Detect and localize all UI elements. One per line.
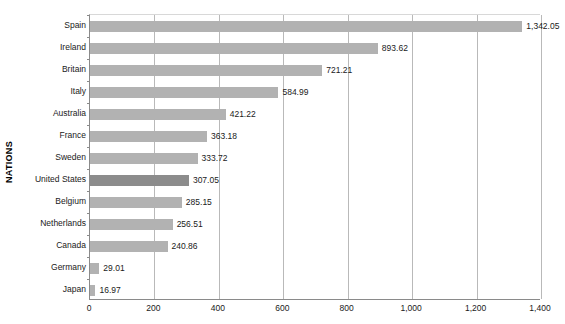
- x-tick-label: 400: [211, 303, 225, 313]
- category-label: Italy: [14, 85, 86, 97]
- category-label: France: [14, 129, 86, 141]
- gridline: [477, 15, 478, 299]
- category-label: Britain: [14, 63, 86, 75]
- category-tick-mark: [87, 103, 90, 104]
- category-axis: SpainIrelandBritainItalyAustraliaFranceS…: [14, 14, 86, 300]
- bar-value-label: 307.05: [193, 174, 219, 186]
- category-label: Belgium: [14, 195, 86, 207]
- category-tick-mark: [87, 235, 90, 236]
- bar-chart: NATIONS SpainIrelandBritainItalyAustrali…: [0, 0, 565, 324]
- category-tick-mark: [87, 279, 90, 280]
- category-tick-mark: [87, 81, 90, 82]
- bar-value-label: 285.15: [186, 196, 212, 208]
- bar[interactable]: [90, 21, 522, 32]
- x-tick-label: 1,000: [401, 303, 422, 313]
- bar-value-label: 333.72: [202, 152, 228, 164]
- category-tick-mark: [87, 169, 90, 170]
- category-tick-mark: [87, 15, 90, 16]
- x-tick-label: 600: [275, 303, 289, 313]
- category-label: Japan: [14, 283, 86, 295]
- category-tick-mark: [87, 147, 90, 148]
- x-axis-tick-labels: 02004006008001,0001,2001,400: [89, 303, 540, 319]
- bar[interactable]: [90, 241, 168, 252]
- x-tick-label: 1,400: [529, 303, 550, 313]
- plot-area: 1,342.05893.62721.21584.99421.22363.1833…: [89, 14, 540, 300]
- category-tick-mark: [87, 191, 90, 192]
- bar-value-label: 1,342.05: [526, 20, 559, 32]
- category-label: Ireland: [14, 41, 86, 53]
- gridline: [412, 15, 413, 299]
- category-tick-mark: [87, 257, 90, 258]
- bar[interactable]: [90, 109, 226, 120]
- bar[interactable]: [90, 43, 378, 54]
- gridline: [541, 15, 542, 299]
- x-tick-label: 0: [87, 303, 92, 313]
- bar-highlighted[interactable]: [90, 175, 189, 186]
- category-label: United States: [14, 173, 86, 185]
- bar-value-label: 240.86: [172, 240, 198, 252]
- bar-value-label: 16.97: [99, 284, 120, 296]
- category-label: Canada: [14, 239, 86, 251]
- bar[interactable]: [90, 197, 182, 208]
- bar[interactable]: [90, 131, 207, 142]
- category-tick-mark: [87, 37, 90, 38]
- category-label: Netherlands: [14, 217, 86, 229]
- bar-value-label: 421.22: [230, 108, 256, 120]
- category-tick-mark: [87, 59, 90, 60]
- category-label: Spain: [14, 19, 86, 31]
- gridline: [348, 15, 349, 299]
- bar-value-label: 256.51: [177, 218, 203, 230]
- bar[interactable]: [90, 219, 173, 230]
- bar-value-label: 721.21: [326, 64, 352, 76]
- bar-value-label: 584.99: [282, 86, 308, 98]
- bar[interactable]: [90, 87, 278, 98]
- bar-value-label: 363.18: [211, 130, 237, 142]
- bar-value-label: 893.62: [382, 42, 408, 54]
- category-label: Sweden: [14, 151, 86, 163]
- bar[interactable]: [90, 285, 95, 296]
- bar-value-label: 29.01: [103, 262, 124, 274]
- bar[interactable]: [90, 153, 198, 164]
- category-label: Australia: [14, 107, 86, 119]
- bar[interactable]: [90, 65, 322, 76]
- gridline: [283, 15, 284, 299]
- category-tick-mark: [87, 125, 90, 126]
- category-tick-mark: [87, 213, 90, 214]
- bar[interactable]: [90, 263, 99, 274]
- category-label: Germany: [14, 261, 86, 273]
- x-tick-label: 1,200: [465, 303, 486, 313]
- x-tick-label: 800: [340, 303, 354, 313]
- x-tick-label: 200: [146, 303, 160, 313]
